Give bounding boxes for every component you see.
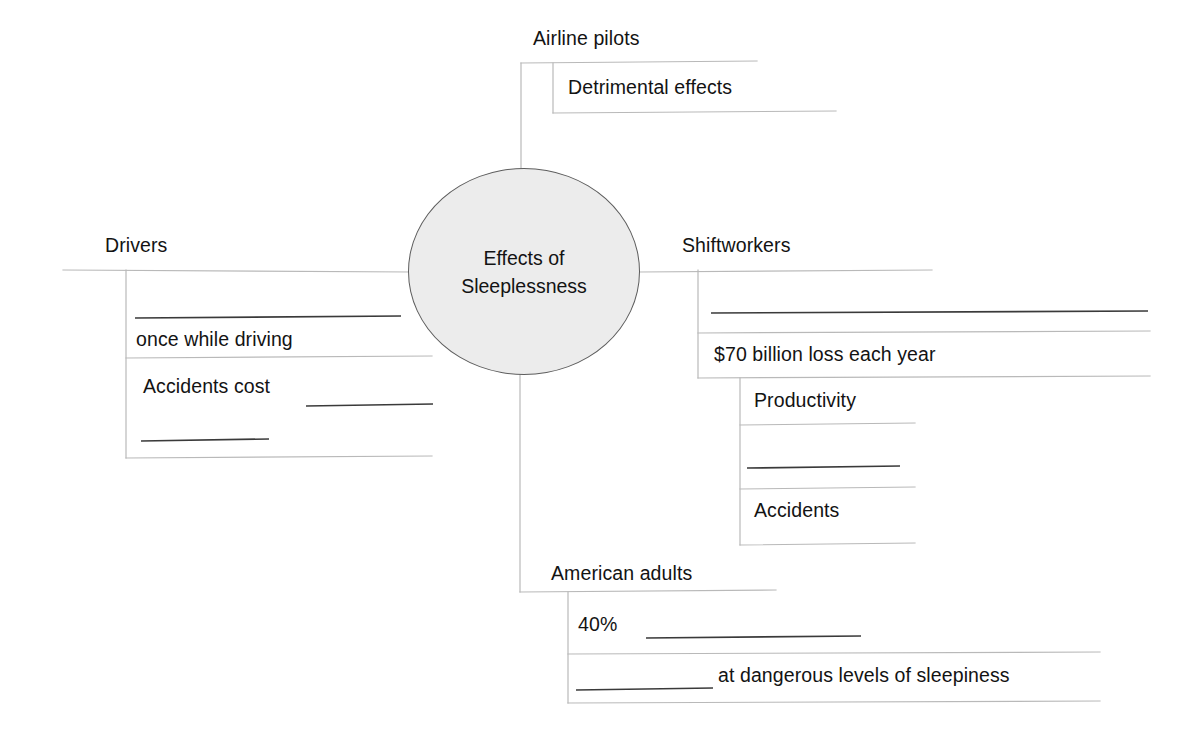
- connector-drivers-spine: [63, 270, 412, 272]
- branch-label-airline-pilots[interactable]: Airline pilots: [533, 27, 640, 49]
- branch-label-drivers[interactable]: Drivers: [105, 234, 167, 256]
- blank-line-dangerous: [576, 688, 713, 690]
- connector-detrimental-label: [553, 111, 836, 113]
- connector-drivers-row1: [126, 356, 432, 358]
- branch-label-once-while-driving[interactable]: once while driving: [136, 328, 293, 350]
- blank-line-drivers-1: [135, 316, 401, 318]
- center-node-label: Effects of Sleeplessness: [408, 245, 640, 300]
- branch-label-forty-percent[interactable]: 40%: [578, 613, 617, 635]
- branch-label-dangerous-levels[interactable]: at dangerous levels of sleepiness: [718, 664, 1010, 686]
- connector-american-row1: [568, 652, 1100, 654]
- branch-label-accidents-cost[interactable]: Accidents cost: [143, 375, 270, 397]
- blank-line-drivers-2: [141, 439, 269, 441]
- blank-line-accidents-cost: [306, 404, 433, 406]
- concept-map-canvas: Effects of Sleeplessness Airline pilots …: [0, 0, 1201, 743]
- branch-label-seventy-billion-loss[interactable]: $70 billion loss each year: [714, 343, 936, 365]
- branch-label-productivity[interactable]: Productivity: [754, 389, 856, 411]
- blank-line-forty-percent: [646, 636, 861, 638]
- blank-line-shiftworkers-1: [711, 311, 1148, 313]
- connector-shiftworkers-row2: [698, 376, 1150, 378]
- connector-american-row2: [568, 701, 1100, 703]
- connector-drivers-row2: [126, 456, 432, 458]
- branch-label-accidents[interactable]: Accidents: [754, 499, 839, 521]
- branch-label-american-adults[interactable]: American adults: [551, 562, 692, 584]
- connector-american-adults-label: [520, 590, 776, 592]
- connector-productivity-line: [740, 423, 915, 425]
- branch-label-detrimental-effects[interactable]: Detrimental effects: [568, 76, 732, 98]
- connector-airline-pilots-label: [521, 61, 757, 63]
- connector-shift-blank2-line: [740, 487, 915, 489]
- connector-shiftworkers-spine: [639, 270, 932, 272]
- blank-line-shiftworkers-2: [747, 466, 900, 468]
- connector-shiftworkers-row1: [698, 331, 1150, 333]
- branch-label-shiftworkers[interactable]: Shiftworkers: [682, 234, 790, 256]
- connector-accidents-line: [740, 543, 915, 545]
